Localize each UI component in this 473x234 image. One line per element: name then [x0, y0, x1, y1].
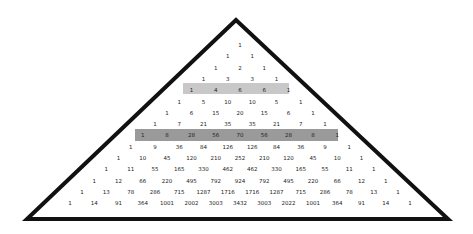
cell-r14-c3: 364 [138, 200, 149, 206]
cell-r7-c4: 35 [249, 121, 256, 127]
cell-r7-c2: 21 [200, 121, 207, 127]
cell-r9-c7: 36 [297, 144, 304, 150]
cell-r5-c2: 10 [224, 99, 231, 105]
cell-r14-c6: 3003 [209, 200, 223, 206]
cell-r4-c2: 6 [238, 87, 242, 93]
cell-r14-c8: 3003 [257, 200, 271, 206]
cell-r7-c0: 1 [153, 121, 157, 127]
cell-r5-c4: 5 [275, 99, 279, 105]
cell-r14-c2: 91 [115, 200, 122, 206]
cell-r9-c6: 84 [273, 144, 280, 150]
cell-r12-c6: 924 [235, 178, 246, 184]
cell-r14-c9: 2022 [282, 200, 296, 206]
cell-r12-c8: 495 [283, 178, 294, 184]
cell-r8-c7: 8 [311, 132, 315, 138]
cell-r2-c2: 1 [263, 65, 267, 71]
cell-r7-c5: 21 [273, 121, 280, 127]
cell-r12-c0: 1 [92, 178, 96, 184]
cell-r12-c12: 1 [384, 178, 388, 184]
cell-r13-c9: 715 [296, 189, 307, 195]
cell-r6-c0: 1 [165, 110, 169, 116]
cell-r13-c0: 1 [80, 189, 84, 195]
cell-r11-c4: 330 [198, 166, 209, 172]
cell-r13-c2: 78 [127, 189, 134, 195]
cell-r7-c7: 1 [323, 121, 327, 127]
cell-r13-c7: 1716 [245, 189, 259, 195]
cell-r7-c6: 7 [299, 121, 303, 127]
cell-r14-c4: 1001 [160, 200, 174, 206]
outer-triangle [0, 0, 473, 234]
cell-r8-c2: 28 [188, 132, 195, 138]
cell-r8-c6: 28 [285, 132, 292, 138]
cell-r5-c0: 1 [178, 99, 182, 105]
cell-r12-c5: 792 [210, 178, 221, 184]
cell-r5-c5: 1 [299, 99, 303, 105]
cell-r11-c10: 11 [346, 166, 353, 172]
cell-r11-c5: 462 [223, 166, 234, 172]
cell-r3-c3: 1 [275, 76, 279, 82]
cell-r12-c11: 12 [358, 178, 365, 184]
cell-r12-c1: 12 [115, 178, 122, 184]
cell-r13-c12: 13 [370, 189, 377, 195]
cell-r14-c5: 2002 [184, 200, 198, 206]
cell-r12-c7: 792 [259, 178, 270, 184]
cell-r12-c9: 220 [308, 178, 319, 184]
cell-r8-c0: 1 [141, 132, 145, 138]
cell-r3-c1: 3 [226, 76, 230, 82]
cell-r11-c0: 1 [105, 166, 109, 172]
cell-r10-c5: 252 [235, 155, 246, 161]
cell-r13-c10: 286 [320, 189, 331, 195]
cell-r2-c1: 2 [238, 65, 242, 71]
cell-r11-c3: 165 [174, 166, 185, 172]
cell-r12-c3: 220 [162, 178, 173, 184]
cell-r10-c8: 45 [309, 155, 316, 161]
cell-r11-c8: 165 [296, 166, 307, 172]
cell-r4-c0: 1 [190, 87, 194, 93]
cell-r7-c1: 7 [178, 121, 182, 127]
cell-r8-c4: 70 [237, 132, 244, 138]
cell-r5-c1: 5 [202, 99, 206, 105]
cell-r6-c1: 6 [190, 110, 194, 116]
cell-r10-c4: 210 [210, 155, 221, 161]
cell-r9-c4: 126 [223, 144, 234, 150]
cell-r14-c12: 91 [358, 200, 365, 206]
cell-r14-c14: 1 [408, 200, 412, 206]
cell-r8-c3: 56 [212, 132, 219, 138]
cell-r10-c9: 10 [334, 155, 341, 161]
cell-r8-c1: 8 [165, 132, 169, 138]
pascal-triangle-diagram: 1111211331146611510105116152015611721353… [0, 0, 473, 234]
cell-r10-c2: 45 [164, 155, 171, 161]
cell-r3-c0: 1 [202, 76, 206, 82]
cell-r4-c1: 4 [214, 87, 218, 93]
cell-r13-c1: 13 [103, 189, 110, 195]
cell-r9-c2: 36 [176, 144, 183, 150]
cell-r10-c6: 210 [259, 155, 270, 161]
cell-r12-c4: 495 [186, 178, 197, 184]
cell-r9-c5: 126 [247, 144, 258, 150]
cell-r6-c5: 6 [287, 110, 291, 116]
cell-r14-c1: 14 [91, 200, 98, 206]
cell-r10-c1: 10 [139, 155, 146, 161]
cell-r13-c4: 715 [174, 189, 185, 195]
cell-r9-c0: 1 [129, 144, 133, 150]
cell-r11-c2: 55 [151, 166, 158, 172]
cell-r13-c5: 1287 [197, 189, 211, 195]
cell-r11-c11: 1 [372, 166, 376, 172]
cell-r10-c0: 1 [117, 155, 121, 161]
cell-r2-c0: 1 [214, 65, 218, 71]
cell-r11-c9: 55 [322, 166, 329, 172]
cell-r7-c3: 35 [224, 121, 231, 127]
cell-r1-c1: 1 [250, 53, 254, 59]
cell-r6-c4: 15 [261, 110, 268, 116]
cell-r9-c8: 9 [323, 144, 327, 150]
cell-r10-c7: 120 [283, 155, 294, 161]
cell-r4-c4: 1 [287, 87, 291, 93]
cell-r0-c0: 1 [238, 42, 242, 48]
cell-r10-c10: 1 [360, 155, 364, 161]
cell-r14-c11: 364 [332, 200, 343, 206]
cell-r8-c5: 56 [261, 132, 268, 138]
cell-r13-c6: 1716 [221, 189, 235, 195]
cell-r9-c1: 9 [153, 144, 157, 150]
cell-r13-c8: 1287 [269, 189, 283, 195]
cell-r11-c1: 11 [127, 166, 134, 172]
